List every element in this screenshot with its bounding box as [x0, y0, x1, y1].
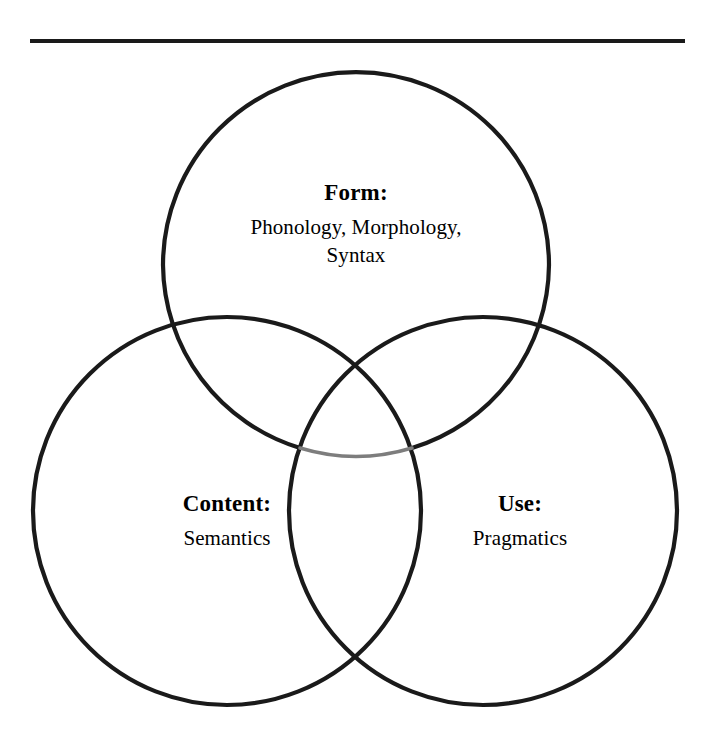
venn-circle-form-bottom-faded-arc	[300, 448, 412, 456]
venn-label-form-title: Form:	[176, 178, 536, 208]
venn-label-form-body-line-1: Phonology, Morphology,	[176, 214, 536, 242]
venn-label-content-body-line-1: Semantics	[107, 525, 347, 553]
venn-label-form-body: Phonology, Morphology, Syntax	[176, 214, 536, 269]
venn-label-content: Content: Semantics	[107, 489, 347, 553]
venn-label-use-body-line-1: Pragmatics	[400, 525, 640, 553]
venn-circle-form-lower-left-arc	[163, 265, 300, 448]
venn-label-form: Form: Phonology, Morphology, Syntax	[176, 178, 536, 270]
venn-label-content-body: Semantics	[107, 525, 347, 553]
venn-circle-form-lower-right-arc	[412, 265, 549, 448]
venn-label-content-title: Content:	[107, 489, 347, 519]
venn-circles-canvas	[0, 0, 712, 738]
venn-label-use-title: Use:	[400, 489, 640, 519]
venn-label-use: Use: Pragmatics	[400, 489, 640, 553]
venn-diagram-figure: Form: Phonology, Morphology, Syntax Cont…	[0, 0, 712, 738]
venn-label-form-body-line-2: Syntax	[176, 242, 536, 270]
venn-label-use-body: Pragmatics	[400, 525, 640, 553]
